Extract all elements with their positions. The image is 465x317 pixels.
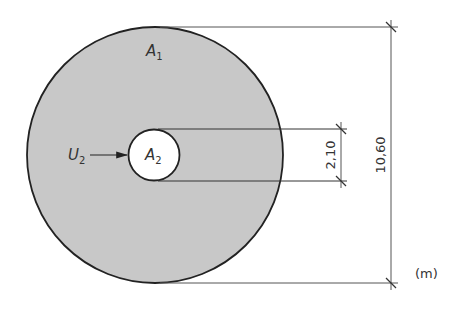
- inner-dimension-value: 2,10: [323, 141, 338, 170]
- outer-dimension-value: 10,60: [373, 136, 388, 173]
- unit-label: (m): [415, 266, 438, 281]
- annulus-diagram: A1 A2 U2 2,10 10,60 (m): [0, 0, 465, 317]
